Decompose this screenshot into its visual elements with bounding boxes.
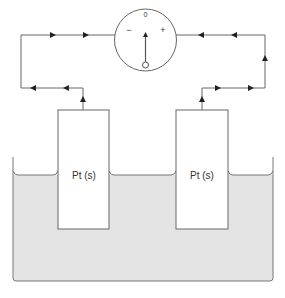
meter-zero-label: 0 [144,11,148,18]
wire-left [21,35,115,110]
electrode-left: Pt (s) [58,110,109,229]
electrode-right: Pt (s) [176,110,228,229]
beaker [13,157,273,281]
arrow-left-icon [198,32,204,38]
meniscus-middle [109,171,176,175]
meniscus-left [13,171,58,175]
arrow-up-icon [262,55,268,61]
cell-diagram: Pt (s) Pt (s) − + 0 [0,0,285,298]
needle-pivot [143,62,149,68]
arrow-left-icon [30,85,36,91]
arrow-right-icon [215,85,221,91]
arrow-left-icon [63,85,69,91]
solution [13,175,273,281]
electrode-left-label: Pt (s) [72,170,96,181]
meter-positive-label: + [160,25,165,35]
voltmeter: − + 0 [115,9,177,71]
arrow-up-icon [199,96,205,102]
meniscus-right [228,171,273,175]
arrow-left-icon [231,32,237,38]
arrow-right-icon [83,32,89,38]
electrode-right-label: Pt (s) [190,170,214,181]
meter-negative-label: − [126,25,131,35]
arrow-right-icon [50,32,56,38]
arrow-right-icon [248,85,254,91]
arrow-up-icon [80,96,86,102]
wire-right [176,35,265,110]
